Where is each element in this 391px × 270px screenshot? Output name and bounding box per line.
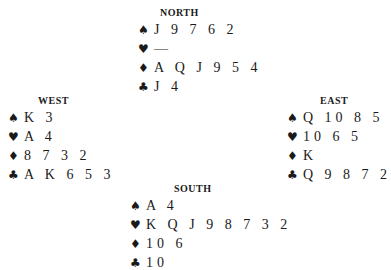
- north-hand: NORTH ♠J 9 7 6 2 ♥— ♦A Q J 9 5 4 ♣J 4: [138, 6, 261, 96]
- north-clubs: ♣J 4: [138, 77, 261, 96]
- east-diamonds: ♦K: [287, 146, 391, 165]
- spade-icon: ♠: [130, 197, 146, 216]
- west-diamonds: ♦8 7 3 2: [8, 146, 114, 165]
- club-icon: ♣: [130, 254, 146, 270]
- north-diamonds: ♦A Q J 9 5 4: [138, 58, 261, 77]
- diamond-icon: ♦: [8, 147, 24, 166]
- club-icon: ♣: [138, 78, 154, 97]
- south-clubs: ♣10: [130, 253, 291, 270]
- diamond-icon: ♦: [287, 147, 303, 166]
- south-hand: SOUTH ♠A 4 ♥K Q J 9 8 7 3 2 ♦10 6 ♣10: [130, 182, 291, 270]
- south-spades: ♠A 4: [130, 196, 291, 215]
- spade-icon: ♠: [8, 109, 24, 128]
- north-hearts: ♥—: [138, 39, 261, 58]
- south-label: SOUTH: [174, 182, 291, 196]
- north-label: NORTH: [160, 6, 261, 20]
- heart-icon: ♥: [138, 40, 154, 59]
- spade-icon: ♠: [287, 109, 303, 128]
- diamond-icon: ♦: [130, 235, 146, 254]
- heart-icon: ♥: [287, 128, 303, 147]
- east-hand: EAST ♠Q 10 8 5 ♥10 6 5 ♦K ♣Q 9 8 7 2: [287, 94, 391, 184]
- south-hearts: ♥K Q J 9 8 7 3 2: [130, 215, 291, 234]
- spade-icon: ♠: [138, 21, 154, 40]
- north-spades: ♠J 9 7 6 2: [138, 20, 261, 39]
- west-label: WEST: [38, 94, 114, 108]
- west-clubs: ♣A K 6 5 3: [8, 165, 114, 184]
- east-clubs: ♣Q 9 8 7 2: [287, 165, 391, 184]
- heart-icon: ♥: [8, 128, 24, 147]
- east-spades: ♠Q 10 8 5: [287, 108, 391, 127]
- club-icon: ♣: [8, 166, 24, 185]
- heart-icon: ♥: [130, 216, 146, 235]
- east-label: EAST: [320, 94, 391, 108]
- east-hearts: ♥10 6 5: [287, 127, 391, 146]
- south-diamonds: ♦10 6: [130, 234, 291, 253]
- diamond-icon: ♦: [138, 59, 154, 78]
- west-hand: WEST ♠K 3 ♥A 4 ♦8 7 3 2 ♣A K 6 5 3: [8, 94, 114, 184]
- west-spades: ♠K 3: [8, 108, 114, 127]
- west-hearts: ♥A 4: [8, 127, 114, 146]
